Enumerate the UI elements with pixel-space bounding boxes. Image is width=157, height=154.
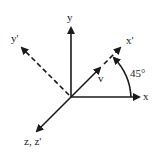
angle-arc [114,58,131,97]
angle-label: 45° [130,68,145,79]
y-prime-axis-label: y' [11,33,18,44]
vector-v [71,68,100,97]
y-prime-axis [22,48,69,95]
coordinate-rotation-diagram: y x y' x' z, z' v 45° [0,0,157,154]
x-prime-axis-label: x' [126,35,133,46]
y-axis-label: y [67,12,73,23]
z-axis [37,97,71,131]
z-axis-label: z, z' [24,136,41,147]
x-axis-label: x [143,91,149,102]
vector-v-label: v [98,73,104,84]
